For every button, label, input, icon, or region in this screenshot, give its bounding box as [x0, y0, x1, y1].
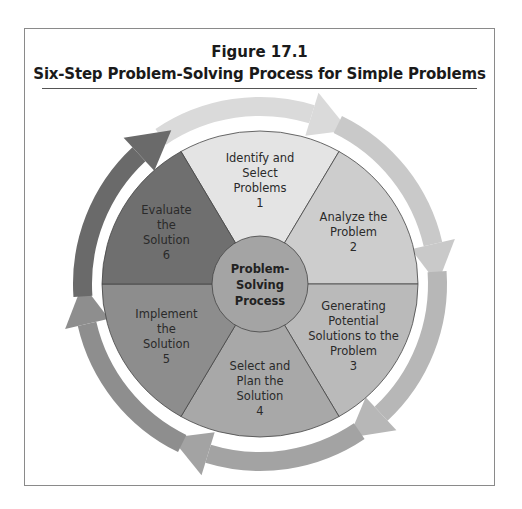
step-5-label: Solution [143, 337, 190, 351]
step-3-label: Solutions to the [308, 329, 399, 343]
step-6-label: the [157, 218, 176, 232]
step-3-label: 3 [350, 359, 357, 373]
step-5-label: the [157, 322, 176, 336]
step-6-label: Evaluate [141, 203, 191, 217]
step-4-label: 4 [256, 404, 263, 418]
step-2-label: Problem [330, 225, 377, 239]
step-3-label: Potential [328, 314, 378, 328]
step-6-label: Solution [143, 233, 190, 247]
step-1-label: Select [242, 166, 278, 180]
step-2-label: 2 [350, 240, 357, 254]
step-4-label: Select and [230, 359, 291, 373]
step-1-label: 1 [256, 196, 263, 210]
step-4-label: Solution [237, 389, 284, 403]
center-hub: Problem-SolvingProcess [212, 236, 308, 332]
center-label: Problem- [231, 262, 290, 276]
step-3-label: Generating [321, 299, 385, 313]
step-5-label: Implement [135, 307, 198, 321]
step-1-label: Problems [233, 181, 286, 195]
center-label: Process [235, 294, 285, 308]
problem-solving-cycle-diagram: Identify andSelectProblems1Analyze thePr… [0, 0, 522, 509]
step-1-label: Identify and [226, 151, 295, 165]
step-4-label: Plan the [237, 374, 284, 388]
step-5-label: 5 [163, 352, 170, 366]
step-6-label: 6 [163, 248, 170, 262]
center-label: Solving [236, 278, 284, 292]
step-3-label: Problem [330, 344, 377, 358]
step-2-label: Analyze the [320, 210, 388, 224]
